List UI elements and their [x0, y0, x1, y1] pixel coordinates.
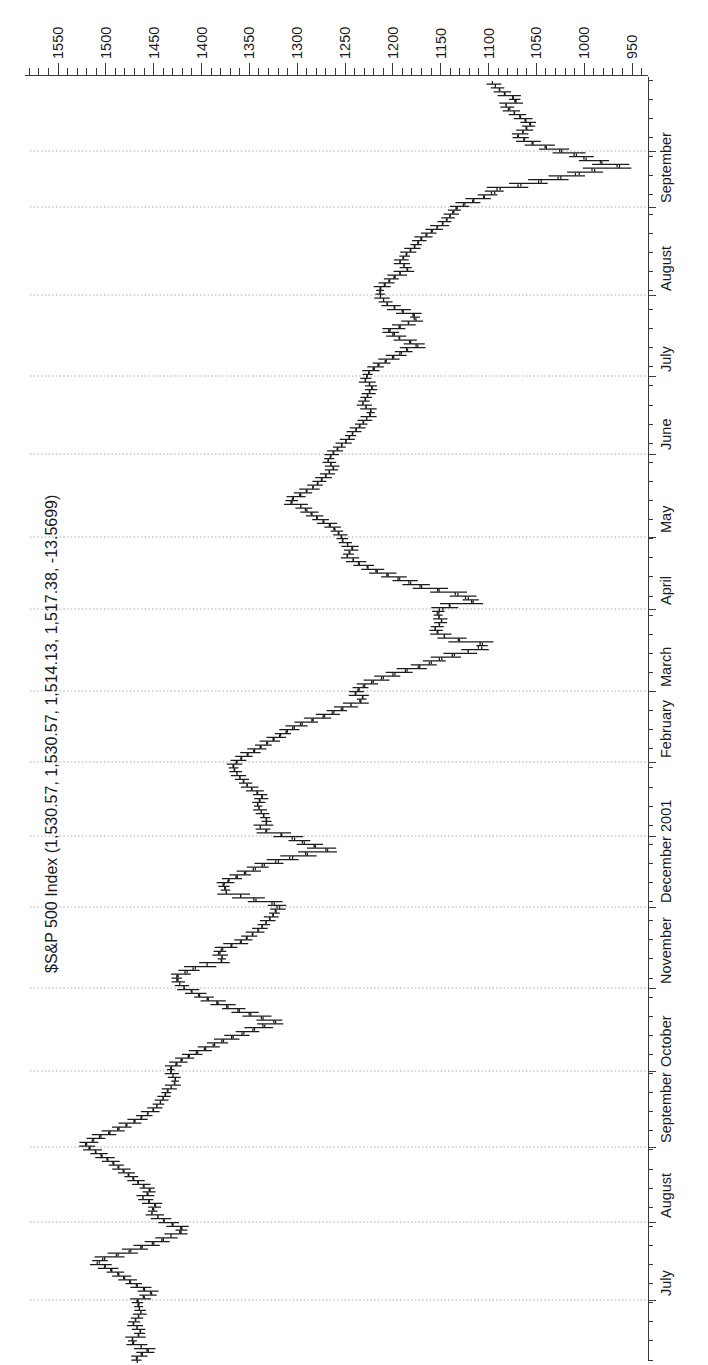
rotated-chart-viewport: 1550150014501400135013001250120011501100… — [0, 0, 708, 1365]
month-label: June — [658, 419, 674, 450]
screenshot-root: { "window": { "background": "#ffffff" },… — [0, 0, 708, 1365]
sp500-daily-bar-chart: 1550150014501400135013001250120011501100… — [0, 0, 708, 1365]
price-axis-label: 1150 — [433, 28, 449, 59]
chart-title: $S&P 500 Index (1,530.57, 1,530.57, 1,51… — [43, 495, 60, 973]
month-label: August — [658, 1173, 674, 1218]
price-axis-label: 1350 — [241, 27, 257, 59]
chart-stage: 1550150014501400135013001250120011501100… — [0, 0, 708, 1365]
price-axis-label: 1550 — [50, 27, 66, 59]
price-axis-label: 1250 — [337, 27, 353, 59]
price-axis-label: 1300 — [289, 27, 305, 59]
price-axis-label: 1000 — [576, 27, 592, 59]
price-axis-label: 1450 — [146, 27, 162, 59]
price-axis-label: 1500 — [98, 27, 114, 59]
month-label: July — [658, 345, 674, 372]
month-label: February — [658, 699, 674, 758]
month-label: April — [658, 576, 674, 605]
month-label: July — [658, 1269, 674, 1296]
month-label: May — [658, 505, 674, 533]
price-axis-label: 1100 — [481, 28, 497, 59]
month-label: 2001 — [658, 800, 674, 832]
month-label: September — [658, 132, 674, 203]
month-label: October — [658, 1015, 674, 1067]
price-axis-label: 1050 — [528, 27, 544, 59]
month-label: March — [658, 647, 674, 687]
price-axis-label: 950 — [624, 35, 640, 59]
price-axis-label: 1200 — [385, 27, 401, 59]
price-axis-label: 1400 — [194, 27, 210, 59]
month-label: August — [658, 246, 674, 291]
month-label: November — [658, 917, 674, 984]
chart-background — [0, 0, 708, 1365]
month-label: September — [658, 1072, 674, 1143]
month-label: December — [658, 836, 674, 903]
